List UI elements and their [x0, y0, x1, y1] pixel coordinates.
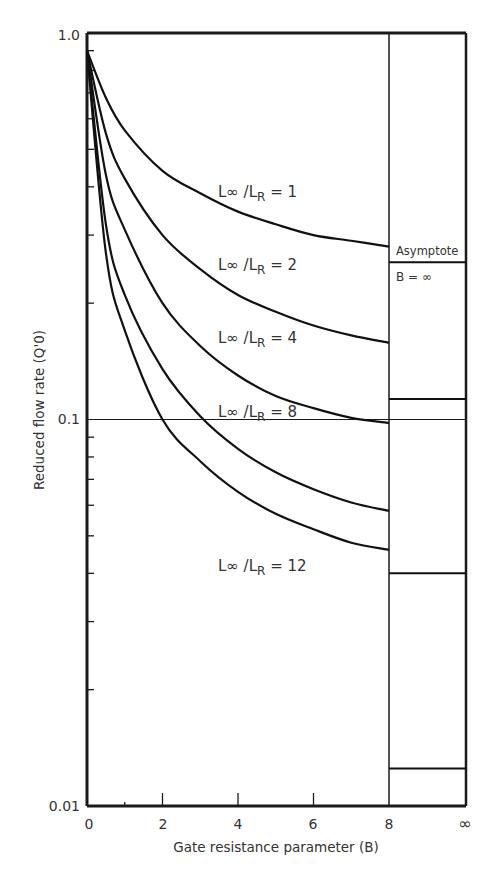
series-curve-5 [87, 51, 389, 550]
series-labels: L∞ /LR = 1L∞ /LR = 2L∞ /LR = 4L∞ /LR = 8… [218, 183, 307, 578]
asymptote-lines [389, 262, 466, 768]
x-tick-label: 6 [309, 816, 318, 832]
x-tick-label-infinity: ∞ [458, 814, 471, 833]
x-tick-label: 4 [234, 816, 243, 832]
x-tick-label: 8 [385, 816, 394, 832]
y-tick-label-0.1: 0.1 [58, 411, 80, 427]
y-axis-title: Reduced flow rate (Q'0) [31, 330, 47, 490]
y-tick-label-1: 1.0 [58, 27, 80, 43]
asymptote-label: Asymptote [396, 244, 458, 258]
series-curves [87, 51, 389, 550]
series-curve-3 [87, 51, 389, 423]
series-label: L∞ /LR = 2 [218, 256, 297, 277]
x-axis-title: Gate resistance parameter (B) [173, 839, 379, 855]
x-axis-ticks [125, 793, 314, 806]
x-tick-label: 0 [85, 816, 94, 832]
series-label: L∞ /LR = 12 [218, 557, 307, 578]
asymptote-b-infinity-label: B = ∞ [396, 270, 432, 284]
series-label: L∞ /LR = 4 [218, 329, 297, 350]
x-tick-label: 2 [159, 816, 168, 832]
series-curve-4 [87, 51, 389, 511]
flow-rate-chart: 1.0 0.1 0.01 0 2 4 6 8 ∞ Gate resistance… [0, 0, 497, 874]
y-tick-label-0.01: 0.01 [49, 798, 80, 814]
series-label: L∞ /LR = 8 [218, 403, 297, 424]
series-curve-1 [87, 51, 389, 247]
series-label: L∞ /LR = 1 [218, 183, 297, 204]
